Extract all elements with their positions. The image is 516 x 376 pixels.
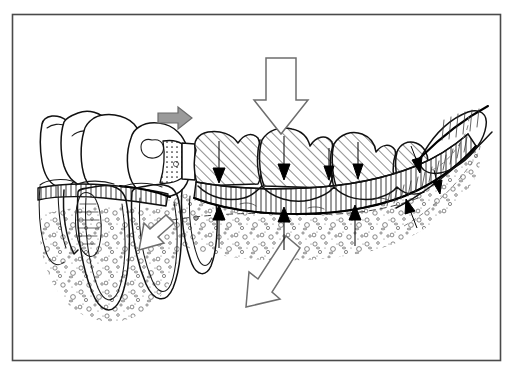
denture-tooth-1 <box>194 131 263 186</box>
dental-force-diagram <box>0 0 516 376</box>
denture-tooth-2 <box>260 128 335 188</box>
illustration-canvas <box>0 0 516 376</box>
clasp-guiding-plane <box>160 141 182 184</box>
minor-connector <box>182 143 195 180</box>
